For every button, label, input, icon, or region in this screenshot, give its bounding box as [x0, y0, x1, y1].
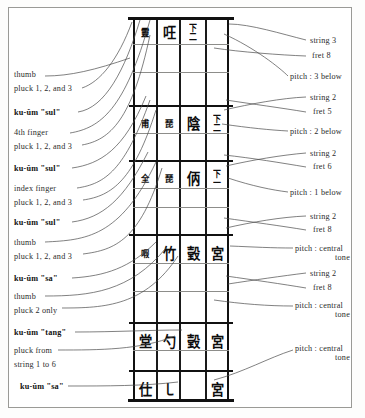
notation-glyph-lower: 二: [206, 124, 227, 133]
annotation-kuum-sa-1: ku-ŭm "sa": [14, 274, 58, 283]
notation-cell: 宮: [206, 247, 227, 262]
notation-cell: 下二: [182, 24, 203, 41]
annotation-pitch-central-3: pitch : central: [295, 344, 343, 353]
notation-cell: 靈: [134, 28, 155, 38]
annotation-pitch-3-below: pitch : 3 below: [290, 72, 342, 81]
annotation-pitch-1-below: pitch : 1 below: [290, 188, 342, 197]
notation-cell: 琵: [158, 119, 179, 129]
annotation-pitch-central-1-cont: tone: [295, 253, 350, 262]
notation-row: 靈 㕵 下二: [133, 20, 229, 46]
notation-row: 仕 ㇄ 宮: [133, 377, 229, 403]
grid-divider-minor-5: [133, 207, 229, 208]
annotation-kuum-sa-2: ku-ŭm "sa": [20, 382, 64, 391]
notation-cell: 琵: [158, 174, 179, 184]
annotation-fret-5: fret 5: [313, 107, 332, 116]
annotation-string-2-1: string 2: [310, 93, 336, 102]
notation-row: 堂 勺 㲄 宮: [133, 329, 229, 355]
annotation-pluck-123-2: pluck 1, 2, and 3: [14, 142, 72, 151]
notation-cell: 㗇: [134, 249, 155, 259]
annotation-pluck-2-only: pluck 2 only: [14, 306, 57, 315]
tablature-grid: 靈 㕵 下二 甫 琵 陰 下二 全 琵 㑂 下一 㗇 竹 㲄 宮 堂 勺 㲄 宮: [133, 17, 229, 401]
annotation-kuum-sul-2: ku-ŭm "sul": [14, 164, 61, 173]
notation-cell: 㑂: [182, 172, 203, 187]
annotation-kuum-sul-1: ku-ŭm "sul": [14, 108, 61, 117]
annotation-pitch-central-2: pitch : central: [295, 301, 343, 310]
figure-root: 靈 㕵 下二 甫 琵 陰 下二 全 琵 㑂 下一 㗇 竹 㲄 宮 堂 勺 㲄 宮: [0, 0, 365, 418]
notation-cell: 堂: [134, 335, 155, 350]
annotation-pluck-123-4: pluck 1, 2, and 3: [14, 252, 72, 261]
grid-divider-minor-2: [133, 72, 229, 73]
annotation-pluck-123-3: pluck 1, 2, and 3: [14, 198, 72, 207]
annotation-string-3: string 3: [310, 36, 336, 45]
annotation-string-1-to-6: string 1 to 6: [14, 360, 56, 369]
annotation-thumb-3: thumb: [14, 292, 36, 301]
annotation-pitch-central-2-cont: tone: [295, 310, 350, 319]
annotation-pitch-central-1: pitch : central: [295, 244, 343, 253]
notation-cell: 全: [134, 174, 155, 184]
annotation-fret-8-3: fret 8: [313, 283, 332, 292]
notation-cell: 㲄: [182, 335, 203, 350]
annotation-fret-8-1: fret 8: [312, 51, 331, 60]
annotation-string-2-4: string 2: [310, 269, 336, 278]
annotation-thumb-1: thumb: [14, 70, 36, 79]
notation-glyph-lower: 二: [182, 33, 203, 42]
grid-divider-major-4: [129, 322, 233, 324]
annotation-fret-6: fret 6: [313, 162, 332, 171]
grid-divider-major-3: [129, 234, 233, 236]
notation-row: 甫 琵 陰 下二: [133, 111, 229, 137]
notation-cell: 竹: [158, 247, 179, 262]
notation-cell: 宮: [206, 335, 227, 350]
notation-cell: 勺: [158, 335, 179, 350]
notation-cell: 㲄: [182, 247, 203, 262]
grid-divider-major-1: [129, 105, 233, 107]
grid-divider-minor-7: [133, 291, 229, 292]
annotation-string-2-2: string 2: [310, 149, 336, 158]
annotation-index-finger: index finger: [14, 184, 56, 193]
notation-cell: 下一: [206, 170, 227, 187]
annotation-thumb-2: thumb: [14, 238, 36, 247]
grid-divider-major-5: [129, 370, 233, 372]
notation-cell: 陰: [182, 117, 203, 132]
annotation-string-2-3: string 2: [310, 212, 336, 221]
notation-cell: 下二: [206, 115, 227, 132]
annotation-fret-8-2: fret 8: [313, 225, 332, 234]
notation-cell: 㕵: [158, 26, 179, 41]
annotation-kuum-tang: ku-ŭm "tang": [14, 328, 66, 337]
annotation-pitch-2-below: pitch : 2 below: [290, 127, 342, 136]
notation-cell: 宮: [206, 383, 227, 398]
notation-cell: 甫: [134, 119, 155, 129]
annotation-pluck-123-1: pluck 1, 2, and 3: [14, 84, 72, 93]
notation-cell: 仕: [134, 383, 155, 398]
notation-cell: ㇄: [158, 383, 179, 398]
annotation-pluck-from: pluck from: [14, 346, 52, 355]
grid-divider-major-2: [129, 160, 233, 162]
notation-row: 全 琵 㑂 下一: [133, 166, 229, 192]
annotation-kuum-sul-3: ku-ŭm "sul": [14, 218, 61, 227]
annotation-pitch-central-3-cont: tone: [295, 353, 350, 362]
notation-row: 㗇 竹 㲄 宮: [133, 241, 229, 267]
annotation-4th-finger: 4th finger: [14, 128, 48, 137]
notation-glyph-lower: 一: [206, 179, 227, 188]
